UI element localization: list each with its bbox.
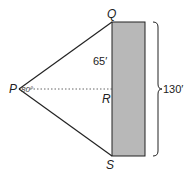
label-Q: Q bbox=[107, 7, 116, 21]
total-height-label: 130′ bbox=[163, 83, 183, 95]
label-P: P bbox=[9, 82, 17, 96]
segment-QR-label: 65′ bbox=[93, 55, 107, 67]
label-R: R bbox=[102, 92, 111, 106]
height-brace bbox=[153, 22, 162, 156]
building-rectangle bbox=[112, 22, 145, 156]
label-S: S bbox=[106, 158, 114, 172]
angle-label: 80° bbox=[21, 85, 34, 94]
line-PS bbox=[19, 89, 112, 156]
geometry-diagram: Q P R S 80° 65′ 130′ bbox=[0, 0, 192, 177]
